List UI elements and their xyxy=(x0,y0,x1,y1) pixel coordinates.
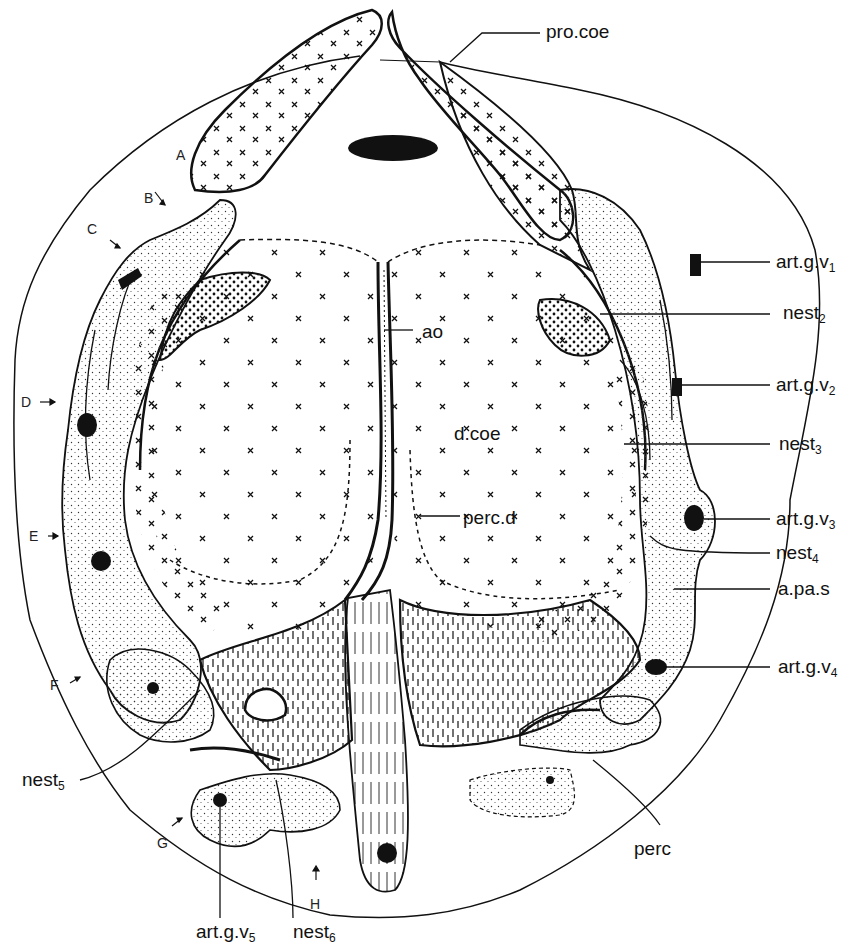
label-nest4: nest4 xyxy=(776,543,819,565)
protocoel-left xyxy=(191,10,382,192)
protocoel-right-lateral xyxy=(440,62,590,270)
dark-ellipse xyxy=(348,135,438,161)
marker-c: C xyxy=(87,222,97,236)
label-perc: perc xyxy=(634,839,671,858)
label-art-g-v3: art.g.v3 xyxy=(776,509,836,531)
art-g-v1-spot xyxy=(690,254,701,276)
label-nest2: nest2 xyxy=(783,303,826,325)
dorsal-coelom-right xyxy=(388,240,637,629)
label-pro-coe: pro.coe xyxy=(546,22,609,41)
lower-mass-left-g xyxy=(191,774,340,847)
art-g-v4-spot xyxy=(645,659,667,675)
marker-g: G xyxy=(157,836,168,850)
label-perc-d: perc.d xyxy=(463,508,516,527)
label-art-g-v5: art.g.v5 xyxy=(196,922,256,944)
art-g-v5-spot xyxy=(213,793,227,807)
label-art-g-v4: art.g.v4 xyxy=(778,657,838,679)
art-g-v2-spot xyxy=(672,378,682,396)
label-art-g-v2: art.g.v2 xyxy=(776,375,836,397)
label-art-g-v1: art.g.v1 xyxy=(776,252,836,274)
dashed-stippled-lump xyxy=(470,768,574,817)
stalk-terminal-dot xyxy=(377,843,397,863)
label-nest5: nest5 xyxy=(22,770,65,792)
art-g-v3-spot xyxy=(684,505,704,531)
d-spot xyxy=(77,413,97,437)
f-spot xyxy=(147,682,159,694)
label-a-pa-s: a.pa.s xyxy=(778,579,830,598)
label-nest3: nest3 xyxy=(779,434,822,456)
anatomical-diagram xyxy=(0,0,860,948)
e-spot xyxy=(91,551,111,571)
label-d-coe: d.coe xyxy=(454,424,500,443)
marker-h: H xyxy=(310,897,320,911)
marker-d: D xyxy=(21,395,31,409)
marker-b: B xyxy=(144,191,153,205)
marker-e: E xyxy=(29,529,38,543)
marker-f: F xyxy=(50,678,59,692)
marker-a: A xyxy=(176,148,185,162)
label-ao: ao xyxy=(422,322,443,341)
label-nest6: nest6 xyxy=(293,922,336,944)
central-stalk xyxy=(345,590,408,892)
